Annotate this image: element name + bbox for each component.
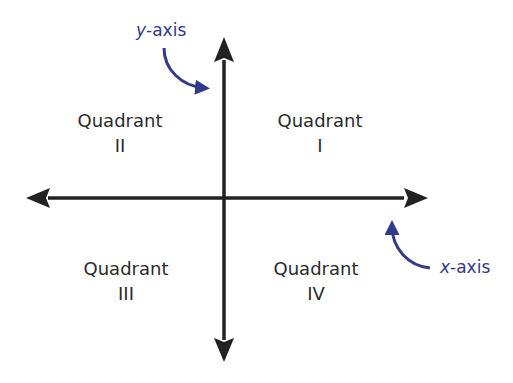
quadrant-i-label: Quadrant I	[260, 108, 380, 158]
x-axis-label-var: x	[440, 257, 450, 277]
quadrant-iv-word: Quadrant	[256, 256, 376, 281]
coordinate-plane	[0, 0, 513, 383]
quadrant-i-word: Quadrant	[260, 108, 380, 133]
quadrant-iii-word: Quadrant	[66, 256, 186, 281]
y-axis-label-var: y	[136, 20, 146, 40]
x-axis-right-arrow-icon	[404, 188, 428, 208]
x-axis-left-arrow-icon	[26, 188, 50, 208]
y-axis-label-suffix: -axis	[146, 20, 186, 40]
quadrant-i-numeral: I	[260, 133, 380, 158]
y-axis-label: y-axis	[136, 20, 186, 40]
quadrant-ii-numeral: II	[60, 133, 180, 158]
y-axis-up-arrow-icon	[214, 37, 234, 62]
x-axis-label: x-axis	[440, 257, 490, 277]
quadrant-iii-label: Quadrant III	[66, 256, 186, 306]
quadrant-iii-numeral: III	[66, 281, 186, 306]
x-axis-pointer-arrow-icon	[392, 226, 430, 268]
y-axis-down-arrow-icon	[214, 338, 234, 362]
x-axis-label-suffix: -axis	[450, 257, 490, 277]
quadrant-ii-word: Quadrant	[60, 108, 180, 133]
x-axis	[26, 188, 428, 208]
y-axis-pointer-arrow-icon	[164, 48, 204, 88]
quadrant-ii-label: Quadrant II	[60, 108, 180, 158]
quadrant-iv-numeral: IV	[256, 281, 376, 306]
quadrant-iv-label: Quadrant IV	[256, 256, 376, 306]
